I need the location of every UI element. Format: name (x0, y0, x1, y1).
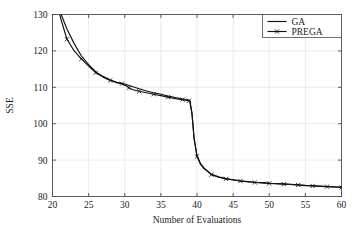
data-point-marker (79, 57, 83, 61)
y-tick-label: 80 (38, 192, 48, 202)
x-axis-title: Number of Evaluations (153, 215, 242, 225)
y-tick-label: 130 (33, 10, 48, 20)
legend-label-ga: GA (292, 17, 306, 27)
x-tick-label: 20 (48, 200, 58, 210)
data-markers-group (65, 37, 344, 189)
y-tick-label: 110 (34, 83, 48, 93)
x-tick-label: 40 (192, 200, 202, 210)
y-tick-label: 100 (33, 119, 48, 129)
data-point-marker (127, 86, 131, 90)
x-tick-label: 55 (301, 200, 311, 210)
chart-figure: 202530354045505560 8090100110120130 Numb… (0, 0, 364, 238)
x-tick-label: 45 (228, 200, 238, 210)
chart-legend: GAPREGA (263, 15, 342, 38)
x-tick-label: 30 (120, 200, 130, 210)
y-tick-label: 120 (33, 46, 48, 56)
y-axis-tick-labels: 8090100110120130 (33, 10, 48, 202)
gridlines (53, 15, 342, 197)
x-tick-label: 25 (84, 200, 94, 210)
x-tick-label: 50 (265, 200, 275, 210)
legend-label-prega: PREGA (292, 27, 323, 37)
x-tick-label: 60 (337, 200, 347, 210)
chart-canvas: 202530354045505560 8090100110120130 Numb… (0, 0, 364, 238)
y-tick-label: 90 (38, 156, 48, 166)
y-axis-title: SSE (5, 97, 15, 114)
x-tick-label: 35 (156, 200, 166, 210)
x-axis-tick-labels: 202530354045505560 (48, 200, 347, 210)
